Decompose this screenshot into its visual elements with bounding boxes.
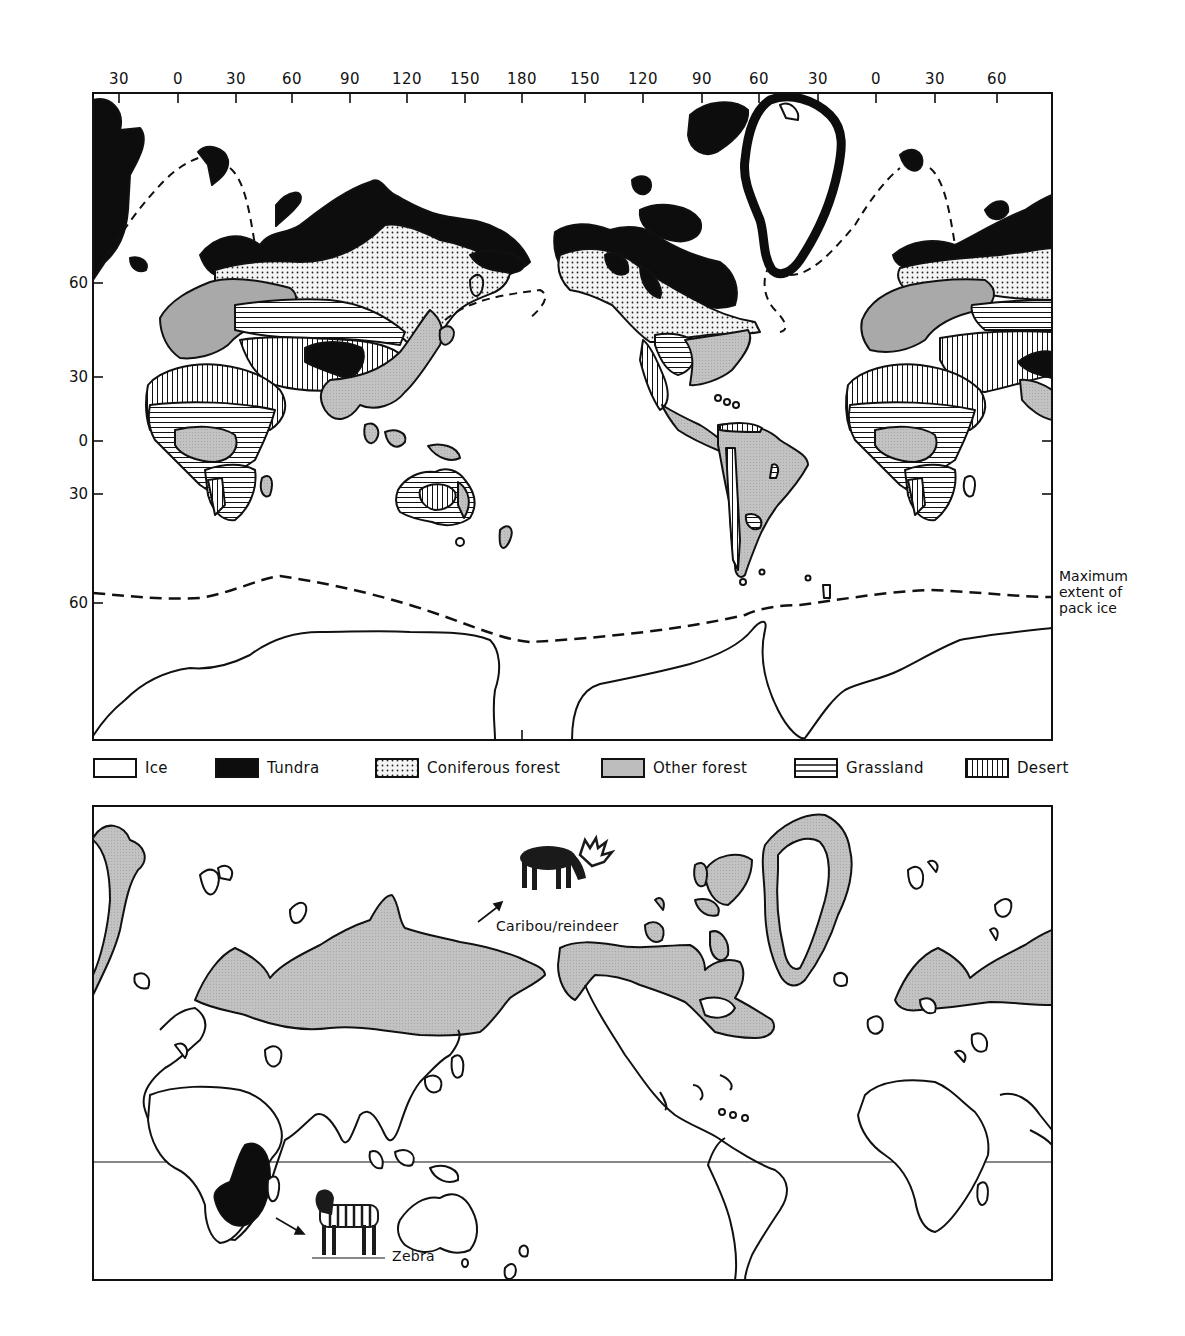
legend-item-tundra: Tundra xyxy=(215,753,320,783)
legend-item-other-forest: Other forest xyxy=(601,753,747,783)
caribou-label: Caribou/reindeer xyxy=(496,918,619,934)
legend: Ice Tundra Coniferous forest Other fores… xyxy=(93,753,1068,787)
legend-label: Ice xyxy=(145,759,168,777)
longitude-label: 0 xyxy=(871,70,881,88)
legend-label: Tundra xyxy=(267,759,320,777)
latitude-label: 30 xyxy=(52,485,88,503)
longitude-label: 0 xyxy=(173,70,183,88)
longitude-label: 150 xyxy=(450,70,480,88)
legend-label: Desert xyxy=(1017,759,1069,777)
tundra-swatch-icon xyxy=(215,758,259,778)
latitude-label: 0 xyxy=(52,432,88,450)
latitude-label: 60 xyxy=(52,274,88,292)
legend-item-desert: Desert xyxy=(965,753,1069,783)
legend-item-grassland: Grassland xyxy=(794,753,924,783)
latitude-label: 30 xyxy=(52,368,88,386)
legend-item-coniferous-forest: Coniferous forest xyxy=(375,753,560,783)
pack-ice-note-line: Maximum xyxy=(1059,568,1128,584)
longitude-label: 120 xyxy=(392,70,422,88)
top-map xyxy=(93,93,1052,740)
longitude-label: 90 xyxy=(692,70,712,88)
ice-swatch-icon xyxy=(93,758,137,778)
legend-label: Coniferous forest xyxy=(427,759,560,777)
longitude-label: 30 xyxy=(226,70,246,88)
longitude-label: 180 xyxy=(507,70,537,88)
longitude-label: 60 xyxy=(749,70,769,88)
other-forest-swatch-icon xyxy=(601,758,645,778)
map-figure xyxy=(0,0,1185,1336)
legend-item-ice: Ice xyxy=(93,753,168,783)
desert-swatch-icon xyxy=(965,758,1009,778)
zebra-label: Zebra xyxy=(392,1248,435,1264)
longitude-label: 120 xyxy=(628,70,658,88)
longitude-label: 30 xyxy=(925,70,945,88)
pack-ice-annotation: Maximum extent of pack ice xyxy=(1059,568,1128,616)
longitude-label: 150 xyxy=(570,70,600,88)
longitude-label: 30 xyxy=(808,70,828,88)
legend-label: Other forest xyxy=(653,759,747,777)
latitude-label: 60 xyxy=(52,594,88,612)
bottom-map xyxy=(93,806,1052,1280)
pack-ice-note-line: pack ice xyxy=(1059,600,1128,616)
coniferous-swatch-icon xyxy=(375,758,419,778)
longitude-label: 60 xyxy=(987,70,1007,88)
grassland-swatch-icon xyxy=(794,758,838,778)
longitude-label: 60 xyxy=(282,70,302,88)
longitude-label: 90 xyxy=(340,70,360,88)
longitude-label: 30 xyxy=(109,70,129,88)
legend-label: Grassland xyxy=(846,759,924,777)
pack-ice-note-line: extent of xyxy=(1059,584,1128,600)
